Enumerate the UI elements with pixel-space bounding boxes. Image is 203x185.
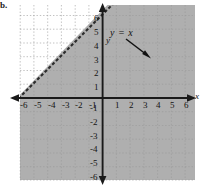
inequality-graph-figure: b. <box>0 0 203 185</box>
y-tick-label-2: 4 <box>94 42 99 51</box>
x-tick-label-7: 2 <box>129 101 134 110</box>
y-tick-label-1: 5 <box>94 28 99 37</box>
y-tick-label-7: -2 <box>90 118 98 127</box>
x-axis-name: x <box>195 92 199 101</box>
x-tick-label-6: 1 <box>115 101 120 110</box>
x-tick-label-2: -4 <box>48 101 56 110</box>
coordinate-plane <box>0 0 203 185</box>
x-tick-label-11: 6 <box>184 101 189 110</box>
y-tick-label-8: -3 <box>90 132 98 141</box>
y-tick-label-0: 6 <box>94 14 99 23</box>
x-tick-label-4: -2 <box>75 101 83 110</box>
y-tick-label-4: 2 <box>94 69 99 78</box>
y-tick-label-9: -4 <box>90 145 98 154</box>
x-tick-label-8: 3 <box>143 101 148 110</box>
x-tick-label-3: -3 <box>62 101 70 110</box>
y-tick-label-11: -6 <box>90 173 98 182</box>
y-tick-label-3: 3 <box>94 56 99 65</box>
x-tick-label-9: 4 <box>156 101 161 110</box>
x-tick-label-10: 5 <box>170 101 175 110</box>
y-tick-label-10: -5 <box>90 159 98 168</box>
line-equation-annotation: y = x <box>110 28 133 38</box>
y-tick-label-5: 1 <box>94 83 99 92</box>
x-tick-label-0: -6 <box>20 101 28 110</box>
x-tick-label-1: -5 <box>34 101 42 110</box>
y-tick-label-6: -1 <box>90 104 98 113</box>
y-axis-name: y <box>106 36 110 45</box>
